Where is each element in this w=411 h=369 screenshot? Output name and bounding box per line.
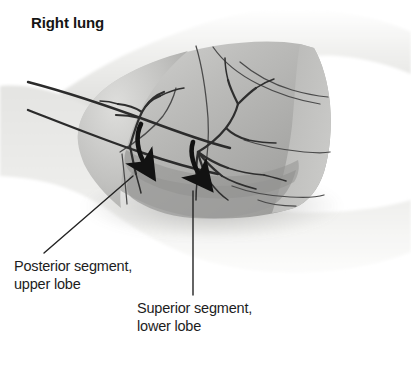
page-title: Right lung — [31, 14, 104, 32]
label-posterior-segment-upper-lobe: Posterior segment, upper lobe — [14, 258, 132, 293]
label-superior-segment-lower-lobe: Superior segment, lower lobe — [137, 300, 252, 335]
